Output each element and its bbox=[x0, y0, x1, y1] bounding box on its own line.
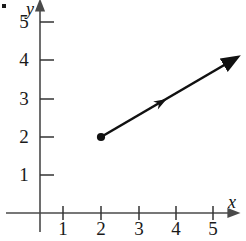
x-tick-label-5: 5 bbox=[203, 219, 223, 238]
x-tick-label-4: 4 bbox=[166, 219, 186, 238]
x-axis-label: x bbox=[228, 193, 236, 211]
ray-endpoint-dot bbox=[97, 133, 105, 141]
y-axis-ticks bbox=[40, 22, 54, 175]
x-tick-label-3: 3 bbox=[129, 219, 149, 238]
y-tick-label-3: 3 bbox=[14, 89, 34, 108]
graph-figure: 1 2 3 4 5 5 4 3 2 1 x y bbox=[0, 0, 246, 241]
x-tick-label-2: 2 bbox=[91, 219, 111, 238]
y-tick-label-4: 4 bbox=[14, 50, 34, 69]
x-tick-label-1: 1 bbox=[53, 219, 73, 238]
y-tick-label-2: 2 bbox=[14, 127, 34, 146]
y-tick-label-1: 1 bbox=[14, 165, 34, 184]
y-axis-label: y bbox=[26, 0, 34, 18]
coordinate-plane-svg bbox=[0, 0, 246, 241]
